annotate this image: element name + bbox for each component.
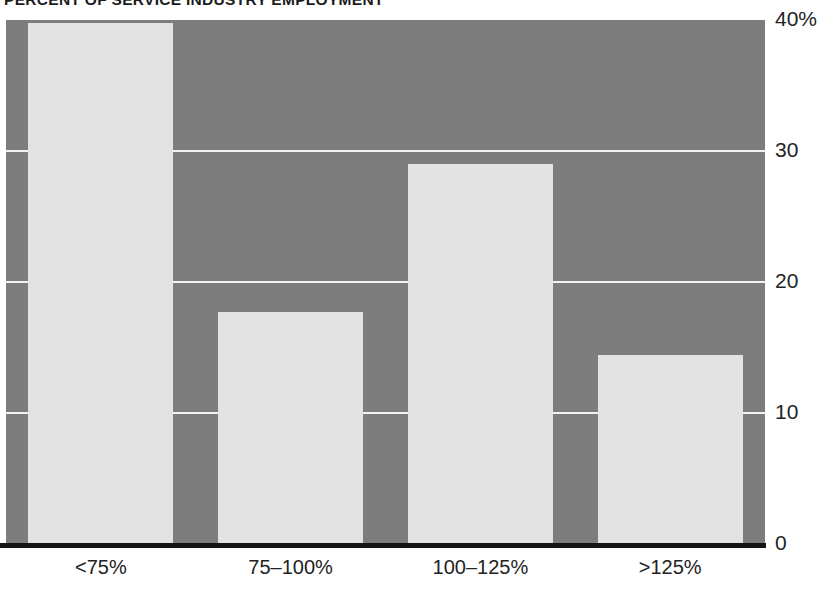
plot-area [6,20,765,544]
bar [598,355,743,544]
y-tick-label: 20 [775,269,798,293]
bar [218,312,363,544]
x-tick-label: 100–125% [386,556,576,579]
y-tick-label: 40% [775,7,817,31]
bar [408,164,553,544]
chart-title: PERCENT OF SERVICE INDUSTRY EMPLOYMENT [4,0,384,9]
x-tick-label: <75% [6,556,196,579]
y-tick-label: 0 [775,531,787,555]
y-tick-label: 10 [775,400,798,424]
x-tick-label: 75–100% [196,556,386,579]
chart-figure: PERCENT OF SERVICE INDUSTRY EMPLOYMENT 4… [0,0,837,589]
x-tick-label: >125% [575,556,765,579]
x-axis-line [0,543,766,548]
bar [28,23,173,544]
y-tick-label: 30 [775,138,798,162]
